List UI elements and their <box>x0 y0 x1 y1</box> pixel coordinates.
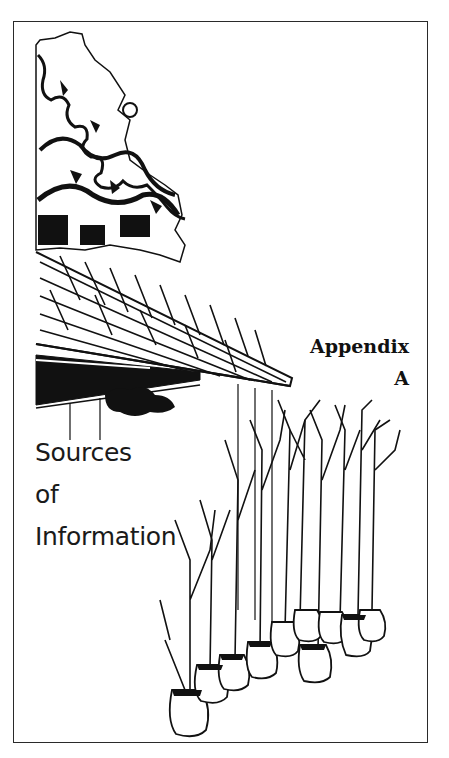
title-line-1: Sources <box>35 432 176 474</box>
foliage-icon <box>105 387 175 416</box>
tree-canopy-icon <box>36 32 185 262</box>
page-title: Sources of Information <box>35 432 176 558</box>
appendix-label: Appendix <box>310 330 409 362</box>
root-ball-icon <box>170 610 386 736</box>
title-line-2: of <box>35 474 176 516</box>
title-line-3: Information <box>35 516 176 558</box>
appendix-letter: A <box>310 362 409 394</box>
appendix-heading: Appendix A <box>310 330 409 394</box>
